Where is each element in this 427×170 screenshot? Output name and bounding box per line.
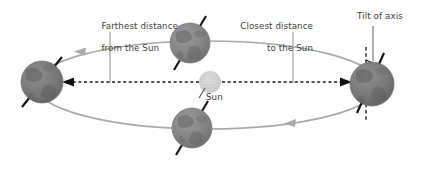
- farthest-arrowhead: [62, 78, 74, 87]
- label-farthest-distance: Farthest distance from the Sun: [90, 10, 178, 65]
- label-closest-line1: Closest distance: [240, 21, 313, 31]
- label-tilt-of-axis: Tilt of axis: [357, 11, 403, 22]
- label-farthest-line2: from the Sun: [101, 43, 159, 53]
- label-closest-distance: Closest distance to the Sun: [221, 10, 313, 65]
- sun-body: [199, 71, 221, 93]
- earth-right: [350, 47, 394, 122]
- earth-left: [21, 57, 63, 107]
- label-closest-line2: to the Sun: [267, 43, 313, 53]
- orbit-arrow-top: [74, 48, 86, 56]
- diagram-canvas: [0, 0, 427, 170]
- label-sun: Sun: [206, 92, 223, 103]
- orbit-diagram: Farthest distance from the Sun Closest d…: [0, 0, 427, 170]
- label-farthest-line1: Farthest distance: [101, 21, 178, 31]
